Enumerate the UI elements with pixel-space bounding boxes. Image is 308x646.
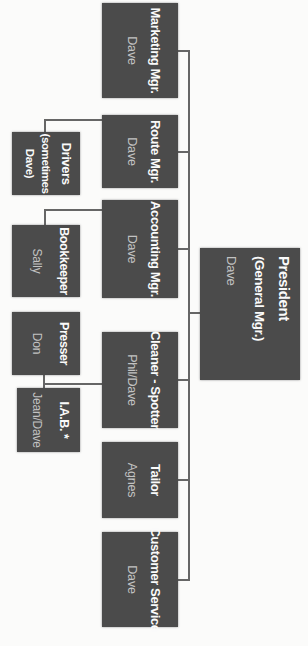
drivers-note-line1: (sometimes — [38, 134, 54, 194]
org-box-bookkeeper: Bookkeeper Sally — [12, 225, 80, 297]
org-box-president: President (General Mgr.) Dave — [200, 248, 300, 380]
customer-service-title: Customer Service — [145, 527, 165, 631]
presser-name: Don — [29, 333, 44, 354]
connector-drop-cleaner — [43, 383, 102, 385]
org-box-marketing-mgr: Marketing Mgr. Dave — [102, 3, 178, 98]
iab-title: I.A.B. * — [55, 401, 73, 438]
connector-president-stub — [190, 312, 200, 314]
presser-title: Presser — [55, 322, 73, 365]
org-box-customer-service: Customer Service Dave — [102, 532, 178, 627]
connector-stub-customer — [178, 579, 190, 581]
president-title: President — [274, 256, 294, 321]
connector-drop-route — [45, 119, 102, 121]
org-box-tailor: Tailor Agnes — [102, 442, 178, 518]
connector-drop-accounting — [45, 209, 102, 211]
president-name: Dave — [224, 256, 239, 286]
cleaner-spotter-name: Phil/Dave — [124, 354, 139, 406]
org-chart: President (General Mgr.) Dave Marketing … — [0, 0, 308, 646]
drivers-note-line2: Dave) — [22, 149, 38, 178]
connector-stub-route — [178, 151, 190, 153]
marketing-mgr-title: Marketing Mgr. — [145, 7, 165, 93]
customer-service-name: Dave — [124, 565, 139, 593]
bookkeeper-title: Bookkeeper — [55, 227, 73, 295]
org-box-accounting-mgr: Accounting Mgr. Dave — [102, 200, 178, 298]
route-mgr-title: Route Mgr. — [145, 120, 165, 183]
connector-stub-tailor — [178, 479, 190, 481]
connector-stub-marketing — [178, 50, 190, 52]
president-subtitle: (General Mgr.) — [250, 256, 268, 341]
bookkeeper-name: Sally — [29, 248, 44, 273]
org-box-drivers: Drivers (sometimes Dave) — [12, 132, 80, 195]
tailor-title: Tailor — [145, 464, 165, 496]
accounting-mgr-name: Dave — [124, 235, 139, 263]
connector-spur-presser-iab — [43, 375, 45, 389]
connector-spur-drivers — [44, 119, 46, 132]
org-box-route-mgr: Route Mgr. Dave — [102, 115, 178, 188]
marketing-mgr-name: Dave — [124, 36, 139, 64]
connector-stub-accounting — [178, 248, 190, 250]
org-box-cleaner-spotter: Cleaner - Spotter Phil/Dave — [102, 332, 178, 428]
connector-stub-cleaner — [178, 379, 190, 381]
route-mgr-name: Dave — [124, 137, 139, 165]
connector-spur-bookkeeper — [44, 209, 46, 225]
connector-rail — [188, 51, 190, 581]
iab-name: Jean/Dave — [29, 392, 44, 448]
drivers-title: Drivers — [57, 142, 76, 184]
org-box-presser: Presser Don — [12, 312, 80, 375]
accounting-mgr-title: Accounting Mgr. — [145, 201, 165, 297]
tailor-name: Agnes — [124, 463, 139, 497]
org-box-iab: I.A.B. * Jean/Dave — [17, 388, 80, 452]
cleaner-spotter-title: Cleaner - Spotter — [145, 331, 165, 429]
